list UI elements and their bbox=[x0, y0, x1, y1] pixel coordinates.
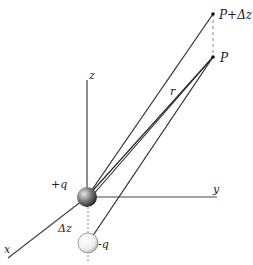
x-axis bbox=[8, 197, 87, 258]
positive-charge-sphere bbox=[77, 187, 97, 207]
positive-charge-label: +q bbox=[51, 178, 67, 191]
point-p-label: P bbox=[219, 51, 229, 65]
dipole-diagram: z y x P P+Δz r +q -q Δz bbox=[0, 0, 253, 265]
separation-label: Δz bbox=[57, 222, 72, 235]
line-neg-q-to-p bbox=[88, 57, 213, 243]
point-p-dz-dot bbox=[211, 12, 215, 16]
z-axis-label: z bbox=[88, 69, 95, 82]
x-axis-label: x bbox=[4, 243, 11, 256]
distance-r-label: r bbox=[170, 85, 176, 98]
negative-charge-sphere bbox=[78, 233, 98, 253]
negative-charge-label: -q bbox=[98, 238, 109, 251]
line-q-to-p-b bbox=[91, 57, 213, 197]
line-q-to-p-dz bbox=[87, 14, 213, 197]
y-axis-label: y bbox=[212, 183, 220, 196]
point-p-dot bbox=[211, 55, 215, 59]
point-p-dz-label: P+Δz bbox=[218, 8, 253, 22]
